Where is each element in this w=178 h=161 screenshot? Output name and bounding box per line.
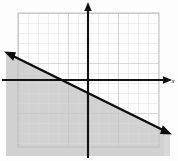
linear-inequality-graph: x [0, 0, 178, 161]
graph-canvas: x [0, 0, 178, 161]
